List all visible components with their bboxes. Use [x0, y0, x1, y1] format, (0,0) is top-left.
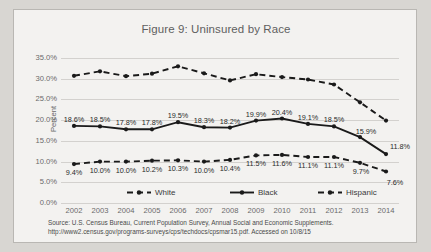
data-point: [150, 159, 154, 163]
x-axis-tick-label: 2009: [248, 206, 265, 215]
data-point: [150, 72, 154, 76]
legend-item-white[interactable]: White: [126, 186, 175, 199]
data-point: [384, 152, 388, 156]
data-point: [280, 153, 284, 157]
legend-swatch-black: [229, 188, 255, 197]
data-point: [202, 125, 206, 129]
y-axis-tick-label: 35.0%: [11, 53, 57, 62]
y-axis-tick-label: 25.0%: [11, 94, 57, 103]
x-axis-tick-label: 2002: [66, 206, 83, 215]
legend-swatch-white: [126, 188, 152, 197]
data-label-black: 18.6%: [64, 115, 85, 124]
data-label-white: 9.7%: [353, 167, 370, 176]
chart-legend: WhiteBlackHispanic: [61, 186, 399, 199]
x-axis-tick-label: 2006: [170, 206, 187, 215]
source-line-2: http://www2.census.gov/programs-surveys/…: [48, 227, 398, 236]
data-label-black: 18.2%: [220, 117, 241, 126]
data-point: [228, 78, 232, 82]
legend-label: Hispanic: [346, 188, 377, 197]
data-label-black: 18.5%: [90, 115, 111, 124]
data-label-white: 11.6%: [272, 159, 292, 168]
data-label-white: 11.5%: [246, 159, 266, 168]
data-point: [124, 74, 128, 78]
data-point: [72, 74, 76, 78]
data-label-black: 19.1%: [298, 113, 319, 122]
data-point: [228, 158, 232, 162]
data-point: [384, 169, 388, 173]
x-axis-tick-label: 2014: [378, 206, 395, 215]
x-axis-tick-label: 2005: [144, 206, 161, 215]
data-label-black: 17.8%: [116, 118, 137, 127]
plot-area: 0.0%5.0%10.0%15.0%20.0%25.0%30.0%35.0% P…: [61, 58, 399, 203]
data-point: [254, 72, 258, 76]
data-label-white: 10.4%: [220, 164, 241, 173]
x-axis-ticks: 2002200320042005200620072008200920102011…: [61, 206, 399, 218]
x-axis-tick-label: 2007: [196, 206, 213, 215]
data-label-white: 10.0%: [90, 166, 111, 175]
y-axis-tick-label: 0.0%: [11, 198, 57, 207]
data-point: [358, 161, 362, 165]
data-point: [72, 124, 76, 128]
data-point: [306, 77, 310, 81]
y-axis-tick-label: 5.0%: [11, 177, 57, 186]
data-label-white: 10.0%: [194, 166, 215, 175]
data-point: [306, 155, 310, 159]
x-axis-tick-label: 2012: [326, 206, 343, 215]
data-point: [176, 64, 180, 68]
data-label-black: 19.9%: [246, 110, 267, 119]
source-note: Source: U.S. Census Bureau, Current Popu…: [48, 218, 398, 236]
page-title: Figure 9: Uninsured by Race: [14, 23, 418, 35]
data-label-white: 11.1%: [324, 161, 344, 170]
data-point: [358, 100, 362, 104]
data-point: [98, 69, 102, 73]
data-point: [306, 122, 310, 126]
x-axis-tick-label: 2004: [118, 206, 135, 215]
data-label-black: 15.9%: [356, 127, 377, 136]
data-point: [280, 116, 284, 120]
data-label-black: 20.4%: [272, 108, 293, 117]
legend-item-black[interactable]: Black: [229, 186, 278, 199]
data-label-black: 17.8%: [142, 118, 163, 127]
x-axis-tick-label: 2013: [352, 206, 369, 215]
legend-label: White: [155, 188, 175, 197]
figure-card: Figure 9: Uninsured by Race 0.0%5.0%10.0…: [13, 9, 417, 243]
data-point: [124, 160, 128, 164]
data-point: [332, 124, 336, 128]
data-label-white: 10.3%: [168, 164, 189, 173]
legend-label: Black: [258, 188, 278, 197]
data-point: [98, 124, 102, 128]
data-point: [124, 127, 128, 131]
data-label-black: 11.8%: [390, 142, 410, 151]
y-axis-tick-label: 10.0%: [11, 157, 57, 166]
data-point: [150, 127, 154, 131]
y-axis-tick-label: 30.0%: [11, 74, 57, 83]
data-point: [176, 120, 180, 124]
x-axis-tick-label: 2010: [274, 206, 291, 215]
data-point: [254, 119, 258, 123]
data-point: [332, 82, 336, 86]
x-axis-tick-label: 2011: [300, 206, 316, 215]
data-label-black: 18.5%: [324, 115, 345, 124]
series-line-hispanic: [74, 66, 386, 120]
y-axis-title: Percent: [49, 106, 58, 132]
data-label-white: 10.2%: [142, 165, 163, 174]
data-point: [202, 71, 206, 75]
y-axis-tick-label: 15.0%: [11, 136, 57, 145]
data-point: [384, 119, 388, 123]
legend-swatch-hispanic: [317, 188, 343, 197]
data-label-white: 10.0%: [116, 166, 137, 175]
source-line-1: Source: U.S. Census Bureau, Current Popu…: [48, 218, 398, 227]
data-point: [254, 153, 258, 157]
legend-item-hispanic[interactable]: Hispanic: [317, 186, 377, 199]
x-axis-tick-label: 2003: [92, 206, 109, 215]
data-point: [202, 160, 206, 164]
data-label-white: 9.4%: [66, 168, 83, 177]
data-label-white: 11.1%: [298, 161, 318, 170]
data-point: [228, 126, 232, 130]
data-point: [98, 160, 102, 164]
gridline: [61, 203, 399, 204]
series-lines: [61, 58, 399, 203]
data-label-black: 19.5%: [168, 111, 189, 120]
data-point: [332, 155, 336, 159]
data-point: [280, 75, 284, 79]
